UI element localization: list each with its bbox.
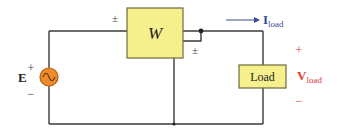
junction-node-bottom	[173, 123, 176, 126]
voltage-coil-marker: ±	[192, 44, 198, 56]
load-voltage-indicator: + Vload −	[296, 43, 323, 108]
load-current-indicator: Iload	[226, 12, 284, 29]
load: Load	[239, 65, 286, 88]
junction-node-top	[199, 29, 204, 34]
source-minus: −	[28, 87, 35, 101]
voltage-label: Vload	[297, 68, 322, 85]
load-label: Load	[250, 70, 275, 84]
ac-source: E + −	[18, 61, 58, 101]
wattmeter-circuit-diagram: W ± ± E + − Load Iload + Vload −	[0, 0, 340, 132]
current-arrow-head-icon	[254, 17, 260, 23]
current-label: Iload	[263, 12, 284, 29]
voltage-minus: −	[296, 94, 303, 108]
current-coil-marker: ±	[112, 12, 118, 24]
wattmeter: W ± ±	[112, 8, 198, 58]
source-label: E	[18, 70, 27, 85]
wire-voltage-coil-tap	[183, 31, 201, 41]
source-plus: +	[28, 61, 35, 75]
voltage-subscript: load	[306, 75, 322, 85]
wattmeter-label: W	[148, 24, 164, 43]
current-subscript: load	[268, 19, 284, 29]
voltage-plus: +	[296, 43, 303, 57]
